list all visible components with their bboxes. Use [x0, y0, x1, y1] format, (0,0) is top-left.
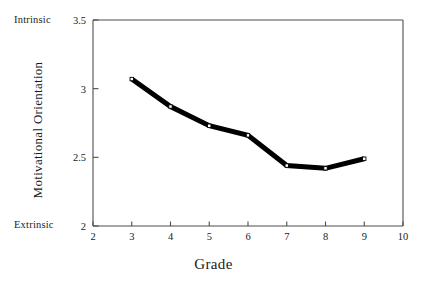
x-axis-ticks [93, 222, 403, 227]
data-point-marker [246, 134, 249, 137]
x-tick-label: 7 [284, 231, 289, 242]
data-series-line [132, 79, 365, 168]
x-tick-label: 4 [168, 231, 174, 242]
plot-area: 2345678910 22.533.5 [0, 0, 427, 288]
data-point-marker [130, 77, 133, 80]
x-tick-label: 8 [323, 231, 328, 242]
data-point-marker [324, 167, 327, 170]
data-point-marker [169, 105, 172, 108]
y-axis-tick-labels: 22.533.5 [73, 15, 86, 232]
y-axis-ticks [93, 20, 99, 226]
plot-frame [93, 20, 403, 226]
x-tick-label: 6 [245, 231, 250, 242]
y-tick-label: 3 [81, 84, 86, 95]
data-point-marker [285, 164, 288, 167]
y-tick-label: 2.5 [73, 152, 86, 163]
x-axis-tick-labels: 2345678910 [90, 231, 408, 242]
data-point-marker [363, 157, 366, 160]
x-tick-label: 9 [362, 231, 367, 242]
x-tick-label: 3 [129, 231, 134, 242]
data-point-marker [208, 124, 211, 127]
chart-figure: Intrinsic Extrinsic Motivational Orienta… [0, 0, 427, 288]
data-point-markers [130, 77, 366, 170]
x-tick-label: 10 [398, 231, 409, 242]
x-tick-label: 5 [207, 231, 212, 242]
y-tick-label: 2 [81, 221, 86, 232]
x-tick-label: 2 [90, 231, 95, 242]
y-tick-label: 3.5 [73, 15, 86, 26]
